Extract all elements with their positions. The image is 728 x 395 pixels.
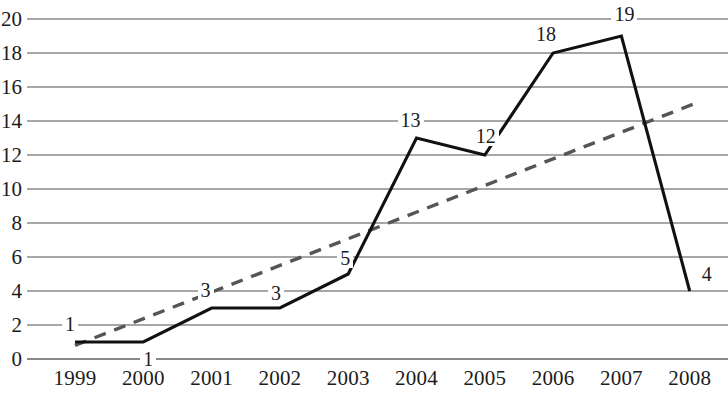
x-axis-tick-label: 2001 — [190, 368, 233, 389]
gridlines-group — [27, 19, 728, 359]
x-axis-tick-label: 2005 — [463, 368, 506, 389]
y-axis-tick-label: 4 — [12, 281, 23, 302]
trendline-dashed — [75, 104, 694, 345]
y-axis-tick-label: 16 — [1, 77, 22, 98]
data-point-label: 3 — [198, 280, 214, 300]
data-point-label: 18 — [533, 24, 559, 44]
y-axis-tick-label: 12 — [1, 145, 22, 166]
y-axis-tick-label: 6 — [12, 247, 23, 268]
x-axis-tick-label: 2007 — [600, 368, 643, 389]
y-axis-tick-label: 14 — [1, 111, 22, 132]
y-axis-tick-label: 0 — [12, 349, 23, 370]
x-axis-tick-label: 2006 — [532, 368, 575, 389]
data-point-label: 12 — [473, 126, 499, 146]
x-axis-tick-label: 2003 — [327, 368, 370, 389]
y-axis-tick-label: 8 — [12, 213, 23, 234]
x-axis-tick-label: 2008 — [668, 368, 711, 389]
data-point-label: 5 — [337, 248, 353, 268]
x-axis-tick-label: 2000 — [122, 368, 165, 389]
data-point-label: 4 — [699, 264, 715, 284]
data-point-label: 1 — [62, 314, 78, 334]
line-chart: 02468101214161820 1999200020012002200320… — [0, 0, 728, 395]
y-axis-tick-label: 10 — [1, 179, 22, 200]
x-axis-tick-label: 2002 — [258, 368, 301, 389]
y-axis-tick-label: 18 — [1, 43, 22, 64]
x-axis-tick-label: 1999 — [54, 368, 97, 389]
y-axis-tick-label: 2 — [12, 315, 23, 336]
data-point-label: 1 — [140, 349, 156, 369]
x-axis-tick-label: 2004 — [395, 368, 438, 389]
data-point-label: 13 — [398, 110, 424, 130]
data-point-label: 19 — [611, 4, 637, 24]
chart-canvas — [0, 0, 728, 395]
data-point-label: 3 — [268, 283, 284, 303]
y-axis-tick-label: 20 — [1, 9, 22, 30]
